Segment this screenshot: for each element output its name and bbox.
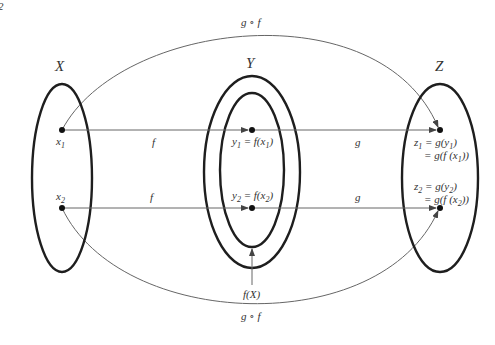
point-x1 — [59, 127, 65, 133]
set-z-label: Z — [435, 58, 444, 74]
image-f-x-ellipse — [220, 93, 284, 247]
point-x2 — [59, 205, 65, 211]
point-y1 — [249, 127, 255, 133]
composite-label-bottom: g ∘ f — [241, 310, 262, 322]
z1-label-line2: = g(f (x1)) — [424, 149, 469, 164]
composite-arrow-top — [62, 35, 438, 130]
set-y-ellipse — [204, 76, 300, 268]
set-x-label: X — [54, 58, 65, 74]
y2-label: y2 = f(x2) — [231, 189, 273, 204]
point-y2 — [249, 205, 255, 211]
corner-mark: 2 — [0, 0, 4, 12]
x2-label: x2 — [55, 190, 65, 205]
y1-label: y1 = f(x1) — [231, 135, 273, 150]
image-label: f(X) — [243, 288, 260, 301]
point-z2 — [437, 205, 443, 211]
z2-label-line2: = g(f (x2)) — [424, 193, 469, 208]
f-label-top: f — [152, 136, 157, 148]
set-z-ellipse — [402, 84, 478, 272]
point-z1 — [437, 127, 443, 133]
g-label-top: g — [355, 136, 361, 148]
composite-label-top: g ∘ f — [241, 16, 262, 28]
f-label-bottom: f — [150, 191, 155, 203]
g-label-bottom: g — [355, 191, 361, 203]
x1-label: x1 — [55, 135, 65, 150]
set-x-ellipse — [32, 84, 92, 272]
set-y-label: Y — [246, 55, 256, 71]
function-composition-diagram: 2 X Y Z f(X) f f g g g ∘ f g ∘ f x1 x2 y… — [0, 0, 495, 345]
